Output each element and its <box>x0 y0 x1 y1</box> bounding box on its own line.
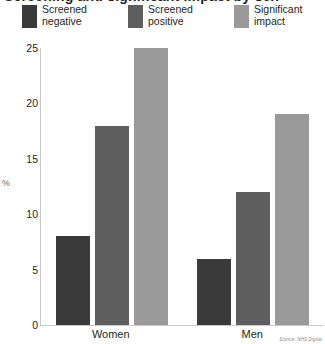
legend-label-line2: positive <box>148 16 193 28</box>
bar-chart: Screening and significant impact by sex … <box>0 0 325 344</box>
legend-label-line1: Significant <box>254 3 302 15</box>
bar[interactable] <box>236 192 270 325</box>
y-axis-tick-label: 10 <box>4 208 38 220</box>
bar[interactable] <box>95 126 129 325</box>
legend-item-label: Screenedpositive <box>148 4 193 27</box>
bar[interactable] <box>134 48 168 325</box>
legend-item[interactable]: Significantimpact <box>234 4 302 28</box>
legend-item-label: Significantimpact <box>254 4 302 27</box>
bar-series-container <box>41 48 323 325</box>
y-axis-ticks: 0510152025 <box>0 0 38 344</box>
x-axis-category-label: Women <box>92 328 130 340</box>
y-axis-tick-label: 15 <box>4 153 38 165</box>
bar[interactable] <box>56 236 90 325</box>
legend-swatch-screened-positive <box>128 5 143 28</box>
y-axis-tick-label: 20 <box>4 97 38 109</box>
legend-label-line1: Screened <box>42 3 87 15</box>
source-note: Source: NHS Digital <box>279 337 322 342</box>
plot-area <box>40 48 323 325</box>
y-axis-tick-label: 0 <box>4 319 38 331</box>
bar[interactable] <box>275 114 309 325</box>
y-axis-tick-label: 5 <box>4 264 38 276</box>
y-axis-label: % <box>2 178 10 188</box>
legend-swatch-significant-impact <box>234 5 249 28</box>
legend-label-line1: Screened <box>148 3 193 15</box>
x-axis-line <box>40 325 323 326</box>
y-axis-tick-label: 25 <box>4 42 38 54</box>
legend-item[interactable]: Screenedpositive <box>128 4 193 28</box>
legend-label-line2: impact <box>254 16 302 28</box>
x-axis-category-label: Men <box>242 328 263 340</box>
chart-legend: ScreenednegativeScreenedpositiveSignific… <box>22 4 322 38</box>
legend-label-line2: negative <box>42 16 87 28</box>
legend-item-label: Screenednegative <box>42 4 87 27</box>
bar[interactable] <box>197 259 231 325</box>
